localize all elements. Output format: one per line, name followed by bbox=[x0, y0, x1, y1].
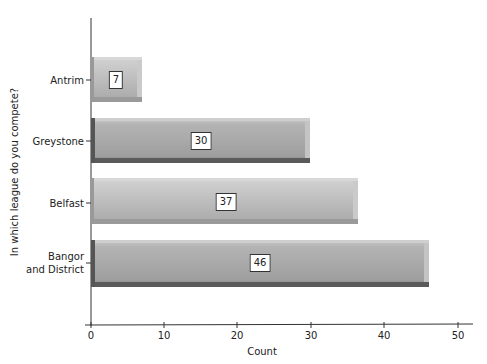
category-label-antrim: Antrim bbox=[50, 74, 84, 87]
x-axis-title: Count bbox=[247, 346, 277, 357]
category-label-greystone: Greystone bbox=[33, 135, 84, 148]
x-tick-label: 50 bbox=[452, 330, 465, 341]
category-label-bangor: Bangorand District bbox=[26, 250, 84, 276]
value-label-antrim: 7 bbox=[109, 71, 123, 89]
bar-chart: In which league do you compete? Count An… bbox=[0, 0, 487, 364]
value-label-bangor: 46 bbox=[250, 254, 271, 272]
x-tick-label: 0 bbox=[88, 330, 94, 341]
category-label-belfast: Belfast bbox=[49, 197, 84, 210]
x-tick-label: 10 bbox=[158, 330, 171, 341]
y-ticks bbox=[86, 80, 91, 263]
x-axis-line bbox=[85, 324, 473, 325]
value-label-greystone: 30 bbox=[191, 132, 212, 150]
x-tick-label: 30 bbox=[305, 330, 318, 341]
x-tick-label: 20 bbox=[231, 330, 244, 341]
value-label-belfast: 37 bbox=[216, 193, 237, 211]
x-tick-label: 40 bbox=[378, 330, 391, 341]
